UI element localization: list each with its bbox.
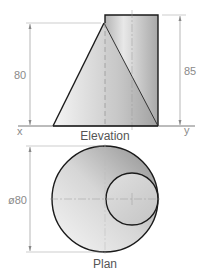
dim-80-arrow-top [29,24,32,29]
dim-85-arrow-bottom [179,120,182,125]
diameter-label: ø80 [8,194,27,206]
drawing-canvas: 80 85 x y Elevation ø80 Plan [0,0,205,279]
cylinder-height-label: 85 [184,65,196,77]
elevation-title: Elevation [80,129,129,143]
cone-height-label: 80 [14,69,26,81]
dim-dia-arrow-top [29,147,32,152]
x-label: x [17,125,23,137]
elevation-view: 80 85 x y Elevation [14,10,196,143]
dim-80-arrow-bottom [29,120,32,125]
plan-view: ø80 Plan [8,144,160,271]
dim-dia-arrow-bottom [29,246,32,251]
plan-title: Plan [93,257,117,271]
dim-85-arrow-top [179,16,182,21]
y-label: y [184,124,190,136]
